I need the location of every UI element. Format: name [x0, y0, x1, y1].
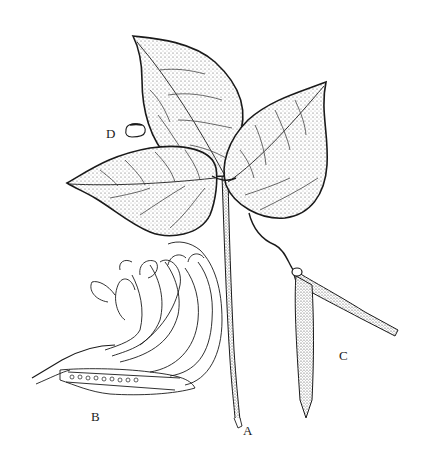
ovules — [70, 375, 138, 382]
stem-base — [234, 418, 242, 428]
botanical-illustration — [0, 0, 425, 462]
stem — [222, 176, 240, 420]
label-b: B — [91, 410, 100, 423]
flower-section — [32, 242, 222, 395]
leaflet-left — [67, 146, 217, 235]
seed — [126, 124, 145, 137]
label-a: A — [243, 424, 252, 437]
label-d: D — [106, 127, 115, 140]
label-c: C — [339, 349, 348, 362]
pods — [249, 213, 398, 418]
